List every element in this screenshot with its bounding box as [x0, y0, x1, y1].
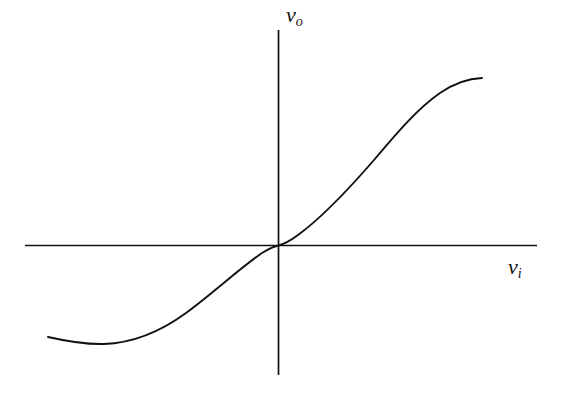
x-axis-label: vi: [508, 256, 522, 278]
y-axis-label-subscript: o: [296, 14, 303, 29]
y-axis-label: vo: [286, 4, 303, 26]
transfer-characteristic-figure: vo vi: [0, 0, 563, 399]
x-axis-label-subscript: i: [518, 266, 522, 281]
x-axis-label-symbol: v: [508, 254, 518, 279]
y-axis-label-symbol: v: [286, 2, 296, 27]
plot-canvas: [0, 0, 563, 399]
transfer-curve: [48, 78, 482, 344]
